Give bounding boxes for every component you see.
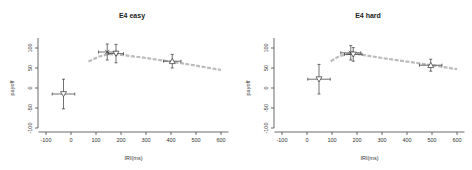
x-axis-title: IRI(ms) bbox=[360, 155, 378, 161]
x-tick-label: 200 bbox=[352, 137, 361, 143]
y-tick-label: 100 bbox=[27, 43, 33, 52]
data-point-triangle-up bbox=[164, 54, 182, 68]
fit-curve bbox=[89, 54, 222, 70]
y-tick-label: 50 bbox=[263, 65, 269, 71]
plot-area: -100-50050100payoff-10001002003004005006… bbox=[236, 0, 472, 170]
x-tick-label: 600 bbox=[452, 137, 461, 143]
x-tick-label: 300 bbox=[141, 137, 150, 143]
y-tick-label: 100 bbox=[263, 43, 269, 52]
x-tick-label: 500 bbox=[427, 137, 436, 143]
x-tick-label: 100 bbox=[327, 137, 336, 143]
y-tick-label: 0 bbox=[263, 86, 269, 89]
x-tick-label: 200 bbox=[116, 137, 125, 143]
data-point-triangle-down bbox=[109, 44, 124, 62]
y-tick-label: 50 bbox=[27, 65, 33, 71]
chart-panel-easy: E4 easy -100-50050100payoff-100010020030… bbox=[0, 0, 236, 170]
data-point-triangle-down bbox=[308, 64, 331, 94]
x-tick-label: 100 bbox=[91, 137, 100, 143]
x-tick-label: -100 bbox=[276, 137, 287, 143]
data-point-triangle-down bbox=[345, 48, 363, 62]
chart-panel-hard: E4 hard -100-50050100payoff-100010020030… bbox=[236, 0, 472, 170]
y-tick-label: -100 bbox=[27, 122, 33, 133]
data-point-triangle-down bbox=[52, 79, 75, 109]
y-tick-label: -50 bbox=[263, 104, 269, 112]
x-tick-label: 0 bbox=[305, 137, 308, 143]
fit-curve bbox=[331, 54, 457, 70]
x-tick-label: 500 bbox=[191, 137, 200, 143]
y-tick-label: -100 bbox=[263, 122, 269, 133]
y-tick-label: 0 bbox=[27, 86, 33, 89]
x-tick-label: 400 bbox=[166, 137, 175, 143]
x-tick-label: 400 bbox=[402, 137, 411, 143]
plot-area: -100-50050100payoff-10001002003004005006… bbox=[0, 0, 236, 170]
y-tick-label: -50 bbox=[27, 104, 33, 112]
x-tick-label: 0 bbox=[69, 137, 72, 143]
x-tick-label: 300 bbox=[377, 137, 386, 143]
data-point-triangle-up bbox=[420, 59, 443, 71]
y-axis-title: payoff bbox=[245, 80, 251, 95]
x-tick-label: 600 bbox=[216, 137, 225, 143]
y-axis-title: payoff bbox=[9, 80, 15, 95]
x-tick-label: -100 bbox=[40, 137, 51, 143]
x-axis-title: IRI(ms) bbox=[124, 155, 142, 161]
